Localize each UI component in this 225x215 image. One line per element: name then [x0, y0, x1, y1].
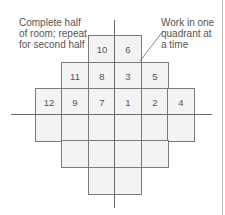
tile-layout-diagram: Complete half of room; repeat for second… — [0, 0, 225, 215]
page-edge-rule — [222, 0, 223, 215]
annotation-pointer-line — [0, 0, 225, 215]
